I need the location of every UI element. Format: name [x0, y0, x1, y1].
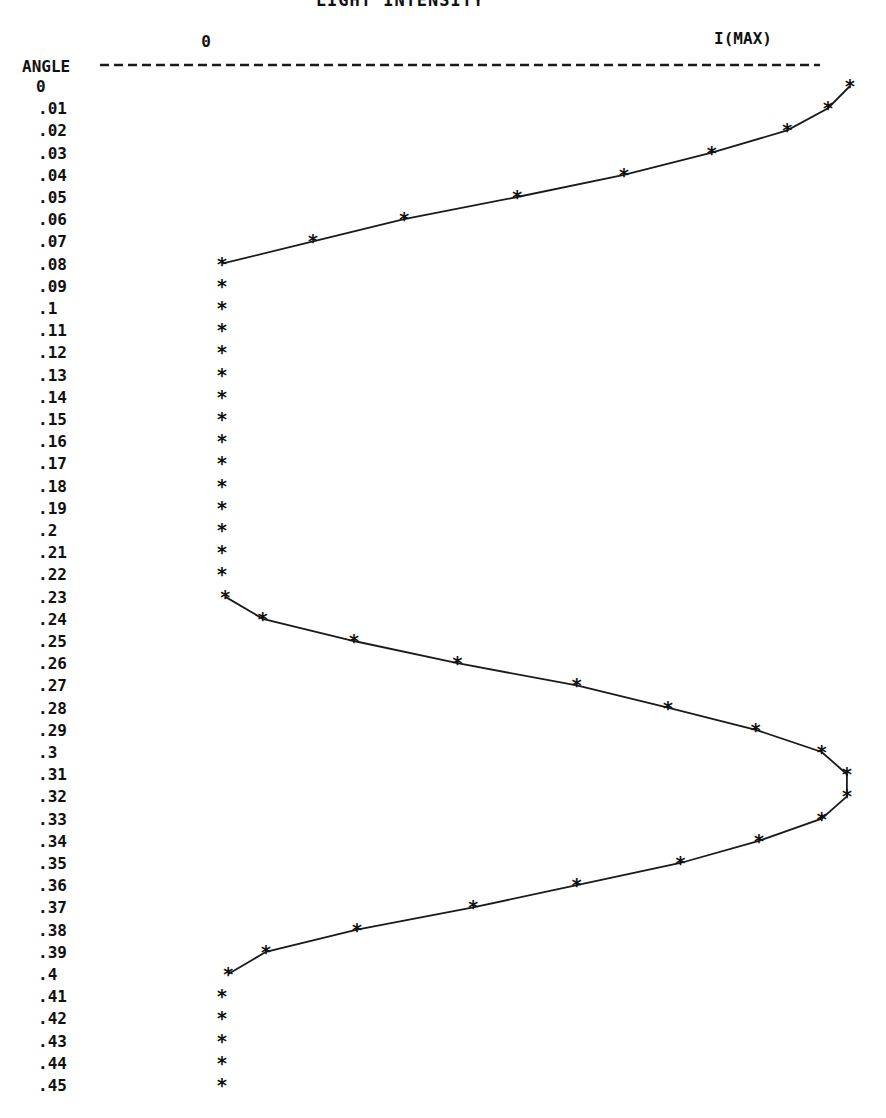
y-axis-angle-label: ANGLE: [22, 57, 70, 76]
angle-tick-label: .45: [38, 1076, 67, 1095]
asterisk-marker-icon: *: [816, 808, 827, 830]
angle-tick-label: .14: [38, 388, 67, 407]
asterisk-marker-icon: *: [216, 519, 227, 541]
angle-tick-label: .32: [38, 787, 67, 806]
angle-tick-label: .02: [38, 121, 67, 140]
asterisk-marker-icon: *: [348, 630, 359, 652]
angle-tick-label: .44: [38, 1054, 67, 1073]
asterisk-marker-icon: *: [822, 97, 833, 119]
angle-tick-label: .15: [38, 410, 67, 429]
angle-tick-label: .42: [38, 1009, 67, 1028]
asterisk-marker-icon: *: [216, 297, 227, 319]
data-point-markers: ****************************************…: [216, 75, 855, 1096]
angle-tick-label: .17: [38, 454, 67, 473]
asterisk-marker-icon: *: [351, 919, 362, 941]
angle-tick-label: .43: [38, 1032, 67, 1051]
asterisk-marker-icon: *: [841, 785, 852, 807]
angle-tick-label: .04: [38, 166, 67, 185]
angle-tick-label: .08: [38, 255, 67, 274]
angle-tick-label: .12: [38, 343, 67, 362]
angle-tick-label: .01: [38, 99, 67, 118]
asterisk-marker-icon: *: [750, 719, 761, 741]
angle-tick-label: .39: [38, 943, 67, 962]
angle-tick-label: .1: [38, 299, 57, 318]
asterisk-marker-icon: *: [398, 208, 409, 230]
asterisk-marker-icon: *: [257, 608, 268, 630]
asterisk-marker-icon: *: [216, 985, 227, 1007]
angle-tick-label: .25: [38, 632, 67, 651]
asterisk-marker-icon: *: [675, 852, 686, 874]
asterisk-marker-icon: *: [219, 586, 230, 608]
asterisk-marker-icon: *: [216, 253, 227, 275]
angle-tick-label: .24: [38, 610, 67, 629]
angle-tick-label: .16: [38, 432, 67, 451]
angle-tick-label: .2: [38, 521, 57, 540]
asterisk-marker-icon: *: [216, 452, 227, 474]
asterisk-marker-icon: *: [216, 1074, 227, 1096]
asterisk-marker-icon: *: [223, 963, 234, 985]
asterisk-marker-icon: *: [216, 408, 227, 430]
asterisk-marker-icon: *: [260, 941, 271, 963]
asterisk-marker-icon: *: [216, 364, 227, 386]
asterisk-marker-icon: *: [781, 119, 792, 141]
angle-tick-label: 0: [36, 77, 46, 96]
angle-tick-label: .18: [38, 477, 67, 496]
angle-tick-labels: 0.01.02.03.04.05.06.07.08.09.1.11.12.13.…: [36, 77, 67, 1095]
angle-tick-label: .13: [38, 366, 67, 385]
asterisk-marker-icon: *: [216, 275, 227, 297]
asterisk-marker-icon: *: [571, 874, 582, 896]
x-axis-zero-label: 0: [201, 32, 211, 51]
angle-tick-label: .35: [38, 854, 67, 873]
asterisk-marker-icon: *: [216, 1052, 227, 1074]
angle-tick-label: .41: [38, 987, 67, 1006]
angle-tick-label: .37: [38, 898, 67, 917]
asterisk-marker-icon: *: [216, 541, 227, 563]
asterisk-marker-icon: *: [216, 563, 227, 585]
angle-tick-label: .19: [38, 499, 67, 518]
angle-tick-label: .23: [38, 588, 67, 607]
angle-tick-label: .09: [38, 277, 67, 296]
asterisk-marker-icon: *: [307, 230, 318, 252]
asterisk-marker-icon: *: [844, 75, 855, 97]
asterisk-marker-icon: *: [216, 319, 227, 341]
asterisk-marker-icon: *: [216, 1007, 227, 1029]
angle-tick-label: .07: [38, 232, 67, 251]
angle-tick-label: .33: [38, 810, 67, 829]
light-intensity-chart: LIGHT INTENSITY 0 I(MAX) ANGLE 0.01.02.0…: [0, 0, 886, 1118]
asterisk-marker-icon: *: [571, 674, 582, 696]
asterisk-marker-icon: *: [662, 697, 673, 719]
asterisk-marker-icon: *: [452, 652, 463, 674]
angle-tick-label: .21: [38, 543, 67, 562]
angle-tick-label: .36: [38, 876, 67, 895]
asterisk-marker-icon: *: [816, 741, 827, 763]
asterisk-marker-icon: *: [216, 1030, 227, 1052]
angle-tick-label: .31: [38, 765, 67, 784]
angle-tick-label: .4: [38, 965, 57, 984]
x-axis-max-label: I(MAX): [714, 29, 772, 48]
chart-title: LIGHT INTENSITY: [316, 0, 485, 10]
angle-tick-label: .3: [38, 743, 57, 762]
angle-tick-label: .06: [38, 210, 67, 229]
angle-tick-label: .34: [38, 832, 67, 851]
angle-tick-label: .28: [38, 699, 67, 718]
asterisk-marker-icon: *: [467, 896, 478, 918]
asterisk-marker-icon: *: [511, 186, 522, 208]
curve-segment: [225, 597, 847, 974]
asterisk-marker-icon: *: [753, 830, 764, 852]
angle-tick-label: .11: [38, 321, 67, 340]
angle-tick-label: .38: [38, 921, 67, 940]
asterisk-marker-icon: *: [706, 142, 717, 164]
angle-tick-label: .26: [38, 654, 67, 673]
asterisk-marker-icon: *: [216, 497, 227, 519]
asterisk-marker-icon: *: [216, 475, 227, 497]
angle-tick-label: .27: [38, 676, 67, 695]
asterisk-marker-icon: *: [216, 430, 227, 452]
asterisk-marker-icon: *: [618, 164, 629, 186]
asterisk-marker-icon: *: [216, 386, 227, 408]
angle-tick-label: .03: [38, 144, 67, 163]
angle-tick-label: .22: [38, 565, 67, 584]
angle-tick-label: .29: [38, 721, 67, 740]
angle-tick-label: .05: [38, 188, 67, 207]
asterisk-marker-icon: *: [841, 763, 852, 785]
asterisk-marker-icon: *: [216, 341, 227, 363]
